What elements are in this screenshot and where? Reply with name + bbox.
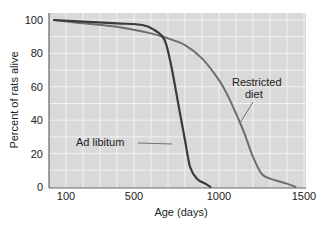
x-axis-title: Age (days) xyxy=(154,206,207,218)
y-tick-label: 60 xyxy=(31,81,43,93)
x-tick-labels: 10050010001500 xyxy=(57,190,316,202)
y-tick-label: 80 xyxy=(31,47,43,59)
y-tick-label: 0 xyxy=(37,181,43,193)
x-tick-label: 100 xyxy=(57,190,75,202)
annotation-ad-libitum: Ad libitum xyxy=(76,136,124,148)
x-tick-label: 500 xyxy=(125,190,143,202)
y-tick-labels: 020406080100 xyxy=(25,14,43,193)
annotation-restricted-line2: diet xyxy=(245,88,263,100)
x-tick-label: 1000 xyxy=(207,190,231,202)
y-tick-label: 100 xyxy=(25,14,43,26)
y-tick-label: 20 xyxy=(31,148,43,160)
y-tick-label: 40 xyxy=(31,114,43,126)
survival-chart: 020406080100 10050010001500 Age (days) P… xyxy=(0,0,326,226)
y-axis-title: Percent of rats alive xyxy=(8,51,20,148)
annotation-restricted-line1: Restricted xyxy=(232,76,282,88)
x-tick-label: 1500 xyxy=(292,190,316,202)
